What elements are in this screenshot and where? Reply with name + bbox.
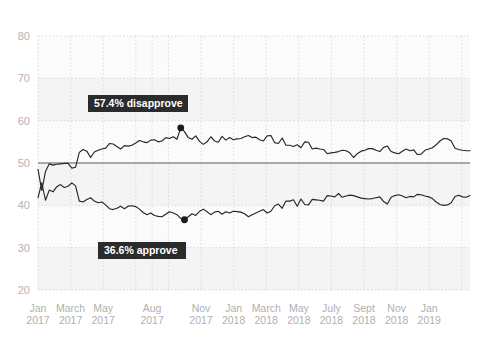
callout-label: 57.4% disapprove [94,97,183,109]
x-axis-label-month: Sept [353,302,375,314]
y-axis-tick-labels: 20304050607080 [18,30,30,296]
x-axis-tick-labels: Jan2017March2017May2017Aug2017Nov2017Jan… [26,302,441,326]
callout-label: 36.6% approve [104,244,178,256]
x-axis-label-year: 2018 [352,314,376,326]
x-axis-label-month: March [252,302,281,314]
y-axis-label: 20 [18,284,30,296]
x-axis-label-month: July [322,302,341,314]
x-axis-label-year: 2017 [92,314,116,326]
x-axis-label-year: 2018 [287,314,311,326]
x-axis-label-month: Jan [225,302,242,314]
y-axis-label: 40 [18,199,30,211]
y-axis-label: 30 [18,242,30,254]
x-axis-label-year: 2017 [59,314,83,326]
x-axis-label-month: Jan [421,302,438,314]
x-axis-label-year: 2018 [320,314,344,326]
x-axis-label-month: May [93,302,114,314]
x-axis-label-year: 2018 [255,314,279,326]
x-axis-label-month: May [289,302,310,314]
approval-rating-chart: 20304050607080 Jan2017March2017May2017Au… [0,0,483,352]
chart-canvas: 20304050607080 Jan2017March2017May2017Au… [0,0,483,352]
marker-approve [181,216,188,223]
y-axis-label: 60 [18,115,30,127]
y-axis-label: 70 [18,72,30,84]
marker-disapprove [177,124,184,131]
x-axis-label-month: Aug [143,302,162,314]
callout-approve: 36.6% approve [98,242,186,259]
x-axis-label-month: Nov [192,302,211,314]
x-axis-label-year: 2017 [189,314,213,326]
x-axis-label-year: 2018 [222,314,246,326]
x-axis-label-year: 2017 [140,314,164,326]
x-axis-label-year: 2019 [418,314,442,326]
x-axis-label-month: Jan [30,302,47,314]
x-axis-label-month: Nov [387,302,406,314]
x-axis-label-year: 2018 [385,314,409,326]
callout-disapprove: 57.4% disapprove [88,95,188,112]
y-axis-label: 80 [18,30,30,42]
y-axis-label: 50 [18,157,30,169]
background-band [38,163,470,205]
x-axis-label-month: March [56,302,85,314]
x-axis-label-year: 2017 [26,314,50,326]
